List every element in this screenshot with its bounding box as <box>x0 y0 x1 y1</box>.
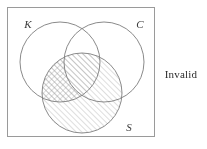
set-label-c: C <box>136 18 144 30</box>
verdict-label: Invalid <box>165 68 198 80</box>
set-label-k: K <box>23 18 32 30</box>
venn-diagram-canvas: K C S Invalid <box>0 0 207 149</box>
set-label-s: S <box>126 121 132 133</box>
venn-diagram-figure: K C S Invalid <box>0 0 207 149</box>
